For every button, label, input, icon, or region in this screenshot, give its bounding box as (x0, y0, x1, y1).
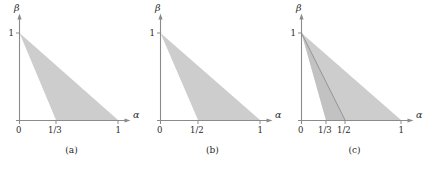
x-tick-label-one-b: 1 (258, 125, 263, 135)
y-axis-label-b: β (154, 2, 161, 13)
panel-b-plot: β α 1 0 1/2 1 (141, 0, 284, 145)
x-tick-label-zero-a: 0 (16, 125, 21, 135)
x-axis-arrow-b (267, 118, 273, 122)
panel-b: β α 1 0 1/2 1 (b) (141, 0, 284, 172)
y-axis-arrow-a (17, 14, 21, 20)
panel-a-plot: β α 1 0 1/3 1 (0, 0, 143, 145)
x-axis-label-b: α (275, 109, 282, 120)
panel-a: β α 1 0 1/3 1 (a) (0, 0, 143, 172)
panel-c: β α 1 0 1/3 1/2 1 (c) (283, 0, 426, 172)
x-tick-label-zero-c: 0 (298, 125, 303, 135)
x-axis-arrow-c (408, 118, 414, 122)
y-axis-arrow-c (299, 14, 303, 20)
shaded-triangle-a (20, 33, 119, 120)
caption-a: (a) (0, 145, 143, 155)
y-axis-label-c: β (295, 2, 302, 13)
y-axis-label-a: β (13, 2, 20, 13)
caption-c: (c) (283, 145, 426, 155)
y-tick-label-one-b: 1 (150, 28, 155, 38)
x-tick-label-third-a: 1/3 (48, 125, 62, 135)
x-tick-label-half-b: 1/2 (190, 125, 204, 135)
panel-c-plot: β α 1 0 1/3 1/2 1 (283, 0, 426, 145)
y-tick-label-one-c: 1 (291, 28, 296, 38)
x-tick-label-one-a: 1 (116, 125, 121, 135)
x-tick-label-zero-b: 0 (157, 125, 162, 135)
x-tick-label-one-c: 1 (399, 125, 404, 135)
x-tick-label-third-c: 1/3 (318, 125, 332, 135)
x-tick-label-half-c: 1/2 (337, 125, 351, 135)
y-tick-label-one-a: 1 (9, 28, 14, 38)
x-axis-label-a: α (133, 109, 140, 120)
y-axis-arrow-b (158, 14, 162, 20)
x-axis-label-c: α (416, 109, 423, 120)
figure-container: β α 1 0 1/3 1 (a) β α 1 0 1/2 1 (b) (0, 0, 427, 172)
shaded-triangle-b (161, 33, 261, 120)
x-axis-arrow-a (125, 118, 131, 122)
caption-b: (b) (141, 145, 284, 155)
